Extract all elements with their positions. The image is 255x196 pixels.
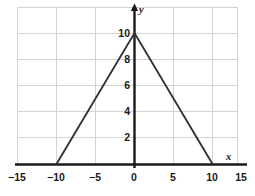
x-axis-label: x — [226, 152, 231, 163]
y-axis-label: y — [139, 5, 144, 16]
x-tick-label--10: −10 — [47, 172, 65, 183]
y-tick-label-10: 10 — [110, 28, 130, 39]
x-tick-label--15: −15 — [8, 172, 26, 183]
y-tick-label-4: 4 — [112, 106, 130, 117]
y-tick-label-8: 8 — [112, 54, 130, 65]
x-tick-label-5: 5 — [170, 172, 176, 183]
y-tick-label-2: 2 — [112, 132, 130, 143]
graph-figure: −15 −10 −5 0 5 10 15 2 4 6 8 10 y x — [0, 0, 255, 196]
x-tick-label--5: −5 — [89, 172, 101, 183]
x-tick-label-15: 15 — [235, 172, 247, 183]
x-tick-label-0: 0 — [131, 172, 137, 183]
x-tick-label-10: 10 — [206, 172, 218, 183]
y-tick-label-6: 6 — [112, 80, 130, 91]
